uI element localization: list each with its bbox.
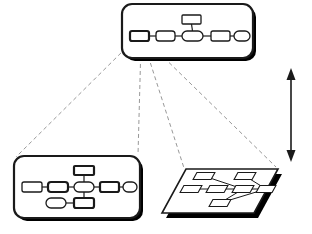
node-top-left[interactable] [193, 173, 215, 180]
node-d[interactable] [211, 31, 230, 41]
expansion-dashed-lines [16, 43, 276, 168]
node-b[interactable] [156, 31, 175, 41]
node-bottom[interactable] [209, 200, 231, 207]
node-source[interactable] [130, 31, 149, 41]
node-top-branch[interactable] [182, 15, 201, 24]
node-center[interactable] [182, 31, 203, 41]
abstraction-level-arrow [287, 68, 296, 162]
diagram-canvas [0, 0, 312, 234]
node-top-right[interactable] [234, 173, 256, 180]
perspective-plane-panel[interactable] [162, 169, 282, 218]
node-a[interactable] [22, 182, 42, 192]
node-lower-left[interactable] [46, 198, 66, 208]
node-d[interactable] [100, 182, 119, 192]
node-mid-right[interactable] [232, 186, 254, 193]
node-lower-branch[interactable] [74, 198, 94, 208]
arrow-head-down-icon [287, 150, 296, 162]
projection-line-1 [16, 43, 131, 157]
diagram-svg [0, 0, 312, 234]
node-b[interactable] [48, 182, 68, 192]
node-far-right[interactable] [256, 186, 276, 193]
node-e[interactable] [123, 182, 137, 192]
top-level-diagram-panel[interactable] [122, 4, 256, 61]
node-mid-left[interactable] [180, 186, 202, 193]
node-upper-branch[interactable] [74, 166, 94, 175]
projection-line-4 [149, 43, 276, 167]
refined-diagram-panel[interactable] [14, 156, 143, 221]
projection-line-3 [144, 43, 184, 168]
arrow-head-up-icon [287, 68, 296, 80]
node-e[interactable] [234, 31, 250, 41]
node-center[interactable] [74, 182, 94, 192]
node-mid-center[interactable] [206, 186, 228, 193]
